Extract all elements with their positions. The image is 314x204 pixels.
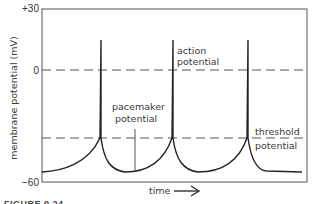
arrow-right-icon bbox=[174, 186, 199, 196]
y-tick-plus30: +30 bbox=[22, 3, 39, 14]
y-tick-minus60: −60 bbox=[22, 177, 39, 188]
action-potential-label-1: action bbox=[177, 45, 206, 56]
figure-caption: FIGURE 9.24 bbox=[4, 199, 64, 204]
x-axis-label: time bbox=[149, 185, 171, 196]
y-axis-label: membrane potential (mV) bbox=[8, 36, 19, 159]
threshold-label-1: threshold bbox=[255, 126, 300, 137]
pacemaker-potential-diagram: +30 0 −60 membrane potential (mV) action… bbox=[0, 0, 314, 204]
y-tick-zero: 0 bbox=[33, 65, 39, 76]
membrane-potential-trace bbox=[42, 40, 302, 172]
threshold-label-2: potential bbox=[255, 140, 297, 151]
plot-frame bbox=[42, 9, 307, 182]
pacemaker-label-1: pacemaker bbox=[112, 101, 165, 112]
pacemaker-label-2: potential bbox=[115, 113, 157, 124]
action-potential-label-2: potential bbox=[177, 56, 219, 67]
